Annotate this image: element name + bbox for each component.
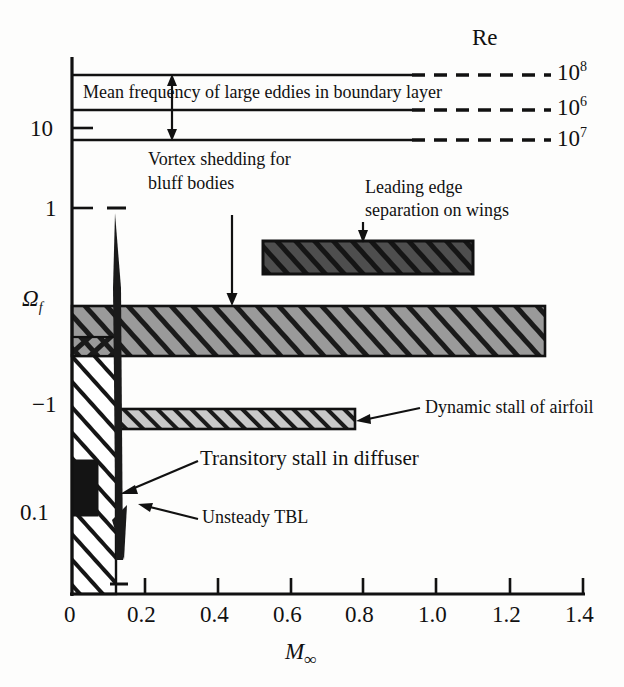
x-tick-label-0p6: 0.6 — [273, 603, 302, 626]
annotation-unsteady-tbl: Unsteady TBL — [202, 508, 308, 526]
annotation-vortex-shedding-line2: bluff bodies — [148, 174, 234, 192]
x-tick-label-1p2: 1.2 — [492, 603, 521, 626]
annotation-dynamic-stall: Dynamic stall of airfoil — [425, 398, 593, 416]
re-label-3-exp: 7 — [580, 125, 587, 140]
y-tick-label-1: 1 — [45, 197, 57, 220]
re-label-2-base: 10 — [557, 95, 580, 120]
x-tick-label-1p0: 1.0 — [418, 603, 447, 626]
x-tick-label-0p2: 0.2 — [127, 603, 156, 626]
bar-vortex-shedding — [72, 306, 545, 356]
annotation-leading-edge-line2: separation on wings — [365, 201, 509, 219]
y-tick-label-10: 10 — [30, 117, 53, 140]
x-tick-label-0p8: 0.8 — [345, 603, 374, 626]
x-tick-label-0p4: 0.4 — [200, 603, 229, 626]
re-label-3-base: 10 — [557, 126, 580, 151]
annotation-transitory-stall: Transitory stall in diffuser — [200, 448, 419, 469]
bar-transitory-stall — [72, 460, 98, 516]
x-tick-label-0: 0 — [64, 603, 76, 626]
y-tick-label-0p1: 0.1 — [20, 501, 49, 524]
secondary-axis-title: Re — [472, 26, 498, 49]
x-axis-title-subscript: ∞ — [304, 650, 316, 669]
x-axis-title-symbol: M — [285, 639, 304, 664]
re-label-2-exp: 6 — [580, 94, 587, 109]
re-label-1-base: 10 — [557, 60, 580, 85]
annotation-mean-frequency: Mean frequency of large eddies in bounda… — [83, 83, 442, 101]
re-label-3: 107 — [557, 126, 587, 150]
y-axis-title: Ωf — [22, 287, 43, 315]
y-axis-title-subscript: f — [39, 300, 43, 315]
re-label-1: 108 — [557, 60, 587, 84]
x-tick-label-1p4: 1.4 — [565, 603, 594, 626]
re-label-2: 106 — [557, 95, 587, 119]
bar-crosshatch-block — [72, 337, 116, 356]
annotation-leading-edge-line1: Leading edge — [365, 178, 462, 196]
y-axis-title-symbol: Ω — [22, 286, 39, 311]
annotation-vortex-shedding-line1: Vortex shedding for — [148, 150, 291, 168]
x-axis-title: M∞ — [285, 640, 316, 668]
re-label-1-exp: 8 — [580, 59, 587, 74]
y-tick-label-minus1: −1 — [32, 393, 56, 416]
bar-leading-edge-separation — [263, 241, 473, 274]
bar-dynamic-stall — [118, 409, 355, 429]
chart-canvas — [0, 0, 624, 687]
